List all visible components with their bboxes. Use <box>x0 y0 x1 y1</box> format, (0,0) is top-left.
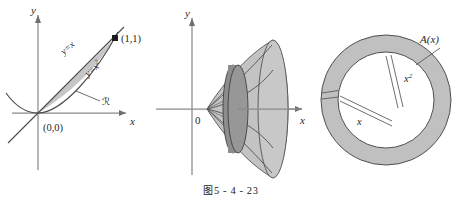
y-axis-arrowhead <box>35 15 41 23</box>
figure-caption-number: 5 - 4 - 23 <box>214 185 259 196</box>
figure-container: y x (1,1) (0,0) y=x y=x2 ℛ <box>0 0 462 216</box>
inner-radius-label: x <box>356 116 362 127</box>
panel-region-plot: y x (1,1) (0,0) y=x y=x2 ℛ <box>0 0 155 180</box>
panel-annulus: A(x) x x2 <box>300 0 462 180</box>
y-axis <box>189 18 195 175</box>
figure-caption: 图5 - 4 - 23 <box>0 182 462 197</box>
label-line-equation: y=x <box>58 39 77 58</box>
y-axis-label: y <box>30 4 36 16</box>
region-plot-svg: y x (1,1) (0,0) y=x y=x2 ℛ <box>0 0 155 180</box>
label-line-equation-group: y=x <box>58 39 77 58</box>
region-label-leader-line <box>76 91 100 101</box>
origin-label: 0 <box>195 114 201 126</box>
region-label: ℛ <box>102 96 110 107</box>
x-axis-arrowhead <box>119 110 126 116</box>
point-label-1-1: (1,1) <box>121 33 142 45</box>
figure-caption-cn: 图 <box>203 185 214 196</box>
annulus-inner-circle <box>338 52 434 148</box>
solid-svg: y x 0 <box>150 0 315 180</box>
y-axis <box>35 15 41 170</box>
panel-solid-of-revolution: y x 0 <box>150 0 315 180</box>
point-marker-1-1 <box>112 35 118 41</box>
origin-label: (0,0) <box>43 122 64 134</box>
area-label: A(x) <box>419 33 439 46</box>
y-axis-label: y <box>184 7 190 19</box>
x-axis <box>12 110 126 116</box>
annulus-svg: A(x) x x2 <box>300 0 462 180</box>
x-axis-label: x <box>129 115 135 127</box>
y-axis-arrowhead <box>189 18 195 26</box>
